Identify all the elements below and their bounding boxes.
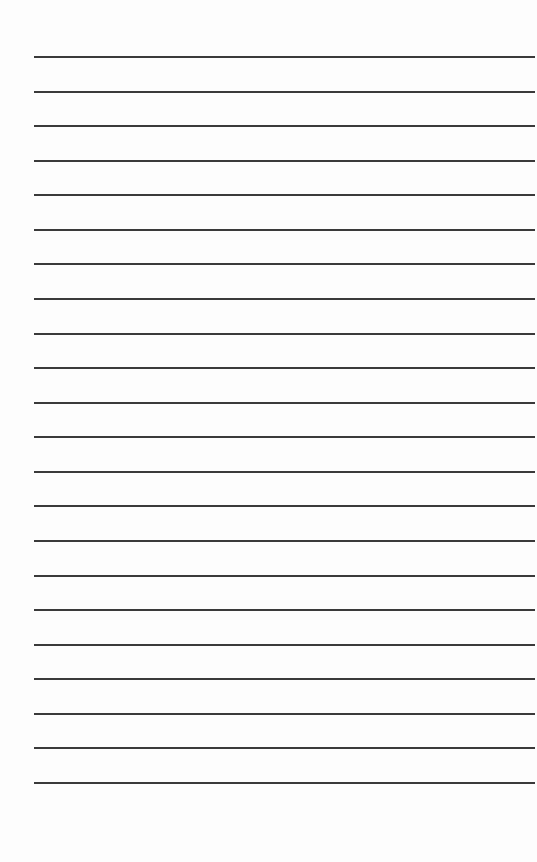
ruled-line <box>34 678 535 680</box>
ruled-line <box>34 575 535 577</box>
ruled-line <box>34 367 535 369</box>
ruled-line <box>34 125 535 127</box>
ruled-line <box>34 747 535 749</box>
ruled-line <box>34 782 535 784</box>
ruled-line <box>34 160 535 162</box>
ruled-line <box>34 263 535 265</box>
ruled-line <box>34 540 535 542</box>
ruled-line <box>34 505 535 507</box>
ruled-line <box>34 609 535 611</box>
ruled-line <box>34 436 535 438</box>
ruled-line <box>34 194 535 196</box>
ruled-line <box>34 333 535 335</box>
ruled-line <box>34 298 535 300</box>
ruled-line <box>34 644 535 646</box>
ruled-line <box>34 402 535 404</box>
ruled-line <box>34 713 535 715</box>
ruled-line <box>34 229 535 231</box>
ruled-line <box>34 471 535 473</box>
ruled-line <box>34 91 535 93</box>
ruled-line <box>34 56 535 58</box>
lined-paper-page <box>0 0 537 862</box>
